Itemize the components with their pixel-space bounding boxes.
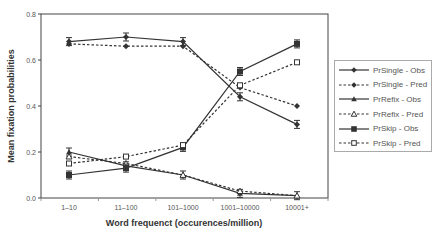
- legend-swatch-icon: [337, 109, 371, 119]
- legend-swatch-icon: [337, 124, 371, 134]
- legend-label: PrSingle - Obs: [373, 66, 425, 75]
- series-prrefix-pred: [66, 154, 300, 199]
- series-group: [66, 33, 300, 200]
- legend-swatch-icon: [337, 65, 371, 75]
- legend-swatch-icon: [337, 80, 371, 90]
- diamond-marker: [294, 103, 300, 109]
- y-tick-label: 0.6: [26, 57, 36, 64]
- legend: PrSingle - ObsPrSingle - PredPrRefix - O…: [334, 60, 432, 152]
- legend-label: PrRefix - Obs: [373, 95, 421, 104]
- legend-item: PrSkip - Obs: [337, 121, 429, 136]
- x-tick-label: 10001+: [285, 204, 309, 211]
- diamond-marker: [123, 43, 129, 49]
- legend-item: PrRefix - Pred: [337, 107, 429, 122]
- y-tick-label: 0.8: [26, 11, 36, 18]
- y-tick-label: 0.4: [26, 103, 36, 110]
- square-marker: [66, 172, 72, 178]
- open-square-marker: [238, 83, 243, 88]
- open-square-marker: [352, 141, 357, 146]
- open-triangle-marker: [351, 111, 357, 116]
- x-tick-label: 11–100: [115, 204, 138, 211]
- square-marker: [237, 69, 243, 75]
- legend-swatch-icon: [337, 138, 371, 148]
- y-tick-label: 0.0: [26, 195, 36, 202]
- open-square-marker: [295, 60, 300, 65]
- open-square-marker: [67, 161, 72, 166]
- legend-item: PrSkip - Pred: [337, 136, 429, 151]
- y-axis-title: Mean fixation probabilities: [6, 49, 16, 163]
- square-marker: [294, 41, 300, 47]
- open-square-marker: [181, 143, 186, 148]
- legend-item: PrSingle - Pred: [337, 78, 429, 93]
- legend-label: PrSkip - Obs: [373, 124, 418, 133]
- x-tick-label: 101–1000: [167, 204, 198, 211]
- legend-label: PrSkip - Pred: [373, 139, 421, 148]
- legend-label: PrSingle - Pred: [373, 80, 427, 89]
- legend-item: PrRefix - Obs: [337, 92, 429, 107]
- diamond-marker: [351, 67, 357, 73]
- series-line: [69, 44, 297, 175]
- open-square-marker: [124, 154, 129, 159]
- x-tick-label: 1001–10000: [221, 204, 260, 211]
- legend-label: PrRefix - Pred: [373, 110, 423, 119]
- diamond-marker: [351, 82, 357, 88]
- series-line: [69, 44, 297, 106]
- square-marker: [123, 165, 129, 171]
- x-axis-title: Word frequenct (occurences/million): [106, 218, 262, 228]
- y-tick-label: 0.2: [26, 149, 36, 156]
- diamond-marker: [123, 34, 129, 40]
- square-marker: [351, 126, 357, 132]
- legend-item: PrSingle - Obs: [337, 63, 429, 78]
- series-line: [69, 37, 297, 124]
- diamond-marker: [294, 121, 300, 127]
- x-tick-label: 1–10: [61, 204, 77, 211]
- legend-swatch-icon: [337, 94, 371, 104]
